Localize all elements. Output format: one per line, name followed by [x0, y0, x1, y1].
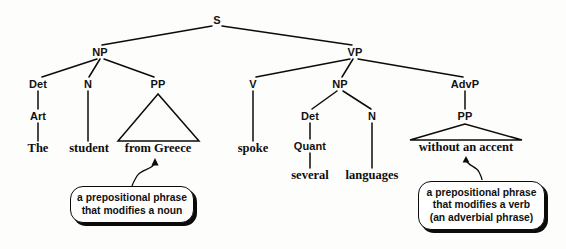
node-pp-advp: PP [458, 110, 473, 122]
node-quant: Quant [294, 140, 326, 152]
branch-s-vp [222, 26, 352, 45]
terminal-spoke: spoke [238, 141, 269, 156]
node-n-subject: N [84, 78, 92, 90]
callout-right-arrowhead [463, 156, 470, 163]
node-vp: VP [348, 46, 363, 58]
node-det-object: Det [301, 110, 319, 122]
branch-vp-v [256, 59, 350, 77]
callout-left-pointer [132, 163, 155, 186]
branch-npobj-det [312, 91, 337, 109]
callout-left: a prepositional phrase that modifies a n… [70, 186, 194, 223]
callout-left-line-1: a prepositional phrase [77, 192, 187, 204]
callout-right-line-1: a prepositional phrase [427, 187, 537, 199]
node-v: V [249, 78, 256, 90]
terminal-several: several [291, 168, 328, 183]
node-pp-subject: PP [151, 78, 166, 90]
branch-np-pp [104, 59, 154, 77]
branch-vp-advp [358, 59, 463, 77]
callout-right-line-3: (an adverbial phrase) [430, 212, 534, 224]
terminal-from-greece: from Greece [125, 141, 192, 156]
terminal-languages: languages [346, 168, 399, 183]
node-np-subject: NP [92, 46, 107, 58]
node-det-subject: Det [29, 78, 47, 90]
callout-left-arrowhead [151, 158, 158, 165]
branch-npobj-n [343, 91, 371, 109]
triangle-from-greece [118, 94, 199, 141]
branch-s-np [102, 26, 212, 45]
branch-vp-np [342, 59, 353, 77]
terminal-without-an-accent: without an accent [419, 140, 513, 155]
callout-right-line-2: that modifies a verb [433, 199, 530, 211]
callout-right-pointer [466, 160, 482, 180]
node-art: Art [30, 110, 46, 122]
callout-left-line-2: that modifies a noun [82, 205, 183, 217]
branch-np-det [42, 59, 97, 77]
callout-right: a prepositional phrase that modifies a v… [418, 181, 545, 230]
terminal-student: student [69, 141, 109, 156]
syntax-tree-diagram: S NP VP Det N PP V NP AdvP Art Det N PP … [0, 0, 566, 249]
triangle-without-an-accent [410, 124, 522, 140]
terminal-the: The [28, 141, 49, 156]
node-advp: AdvP [451, 78, 480, 90]
node-np-object: NP [332, 78, 347, 90]
node-s: S [213, 14, 220, 26]
node-n-object: N [368, 110, 376, 122]
